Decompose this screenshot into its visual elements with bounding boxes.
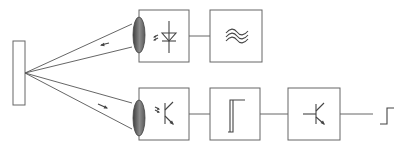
schmitt-trigger-block <box>210 88 260 140</box>
emitted-light-rays <box>25 24 132 73</box>
emitter-led-block <box>139 10 189 62</box>
reflected-light-rays <box>25 73 132 129</box>
output-step-signal-icon <box>380 108 394 124</box>
light-direction-arrow-icon <box>100 43 109 46</box>
oscillator-block <box>210 10 262 62</box>
light-direction-arrow-icon <box>98 104 108 109</box>
receiver-lens <box>133 100 145 136</box>
output-transistor-block <box>288 88 340 140</box>
emitter-lens <box>133 17 145 53</box>
reflector-plate <box>13 41 25 105</box>
receiver-phototransistor-block <box>139 88 189 140</box>
photoelectric-sensor-diagram <box>0 0 403 151</box>
